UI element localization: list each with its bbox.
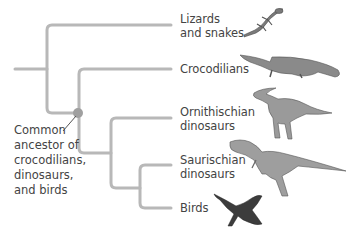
label-line: dinosaurs (180, 119, 255, 133)
label-line: Birds (180, 201, 208, 215)
label-line: and snakes (180, 26, 244, 40)
label-line: Saurischian (180, 153, 246, 167)
lizard-icon (244, 9, 283, 38)
label-line: and birds (14, 183, 86, 198)
taxon-label-ornithischian: Ornithischian dinosaurs (180, 105, 255, 133)
label-line: dinosaurs, (14, 168, 86, 183)
label-line: ancestor of (14, 138, 86, 153)
common-ancestor-node (73, 108, 83, 118)
taxon-label-saurischian: Saurischian dinosaurs (180, 153, 246, 181)
bird-icon (214, 194, 262, 226)
parasaurolophus-icon (253, 88, 332, 139)
taxon-label-crocodilians: Crocodilians (180, 62, 249, 76)
taxon-label-birds: Birds (180, 201, 208, 215)
branch-crocodilians (79, 69, 171, 153)
label-line: Common (14, 123, 86, 138)
label-line: dinosaurs (180, 167, 246, 181)
crocodile-icon (240, 55, 339, 78)
common-ancestor-label: Common ancestor of crocodilians, dinosau… (14, 123, 86, 198)
branch-saurischian-birds (140, 165, 171, 208)
theropod-icon (230, 140, 346, 196)
label-line: Ornithischian (180, 105, 255, 119)
phylogenetic-tree (0, 0, 357, 237)
label-line: Crocodilians (180, 62, 249, 76)
label-line: crocodilians, (14, 153, 86, 168)
label-line: Lizards (180, 12, 244, 26)
taxon-label-lizards: Lizards and snakes (180, 12, 244, 40)
